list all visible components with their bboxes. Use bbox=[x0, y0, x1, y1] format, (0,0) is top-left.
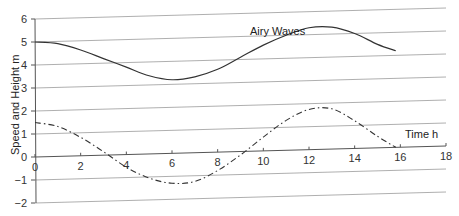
y-tick-label: 4 bbox=[21, 59, 27, 71]
y-tick-label: −1 bbox=[14, 174, 27, 186]
x-axis-label: Time h bbox=[405, 128, 438, 140]
tick-labels: −2−10123456024681012141618 bbox=[14, 13, 452, 209]
y-tick-label: 3 bbox=[21, 82, 27, 94]
y-tick-label: 5 bbox=[21, 36, 27, 48]
x-tick-label: 14 bbox=[349, 152, 361, 164]
x-tick-label: 0 bbox=[32, 161, 38, 173]
gridline bbox=[35, 192, 446, 203]
gridlines bbox=[35, 8, 446, 203]
chart-title: Airy Waves bbox=[250, 25, 306, 37]
x-tick-label: 12 bbox=[303, 154, 315, 166]
y-tick-label: 2 bbox=[21, 105, 27, 117]
gridline bbox=[35, 8, 446, 19]
y-tick-label: 1 bbox=[21, 128, 27, 140]
gridline bbox=[35, 100, 446, 111]
x-tick-label: 8 bbox=[215, 156, 221, 168]
y-axis-label: Speed and Height m bbox=[9, 55, 21, 155]
gridline bbox=[35, 77, 446, 88]
x-tick-label: 4 bbox=[123, 159, 129, 171]
series-height-line bbox=[35, 27, 396, 80]
x-tick-label: 10 bbox=[257, 155, 269, 167]
gridline bbox=[35, 31, 446, 42]
gridline bbox=[35, 169, 446, 180]
y-tick-label: −2 bbox=[14, 197, 27, 209]
y-tick-label: 6 bbox=[21, 13, 27, 25]
x-tick-label: 16 bbox=[394, 151, 406, 163]
y-axis bbox=[35, 19, 36, 203]
x-tick-label: 6 bbox=[169, 157, 175, 169]
x-tick-label: 18 bbox=[440, 150, 452, 162]
gridline bbox=[35, 123, 446, 134]
y-tick-label: 0 bbox=[21, 151, 27, 163]
axes bbox=[35, 19, 36, 203]
chart: −2−10123456024681012141618 Airy Waves Ti… bbox=[0, 0, 459, 216]
x-tick-label: 2 bbox=[78, 160, 84, 172]
